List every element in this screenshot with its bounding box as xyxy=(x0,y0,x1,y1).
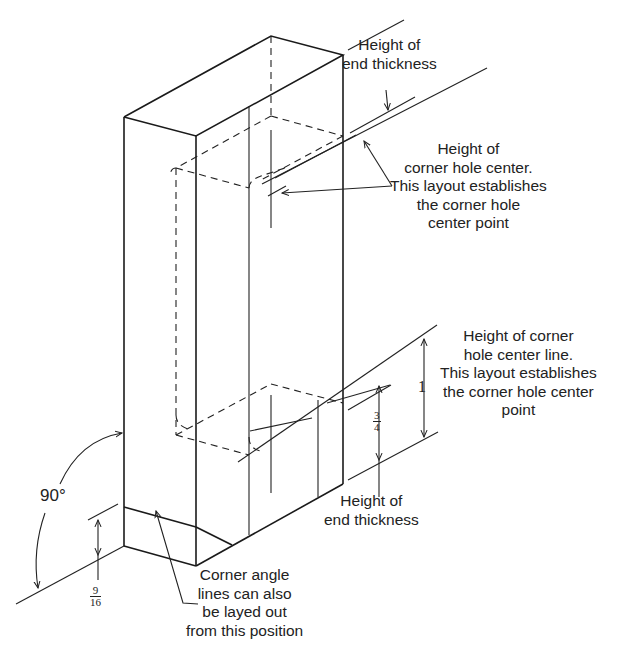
extension-lines-left xyxy=(16,433,198,604)
frac-denominator: 16 xyxy=(90,597,101,608)
label-corner-hole-center-line: Height of cornerhole center line.This la… xyxy=(440,327,597,420)
dim-nine-sixteenths: 9 16 xyxy=(90,585,101,608)
label-end-thickness-top: Height ofend thickness xyxy=(342,36,437,73)
angle-90-label: 90° xyxy=(40,487,66,506)
dim-one: 1 xyxy=(418,378,426,396)
label-end-thickness-bottom: Height ofend thickness xyxy=(324,492,419,529)
extension-lines-bottom xyxy=(238,325,438,497)
label-corner-hole-center: Height ofcorner hole center.This layout … xyxy=(390,140,547,233)
label-corner-angle-lines: Corner anglelines can alsobe layed outfr… xyxy=(186,566,303,640)
diagram-canvas: Height ofend thickness Height ofcorner h… xyxy=(0,0,644,648)
block-drawing xyxy=(0,0,644,648)
frac-denominator: 4 xyxy=(373,422,381,433)
block-outline xyxy=(124,36,343,566)
dim-three-quarters: 3 4 xyxy=(373,410,381,433)
